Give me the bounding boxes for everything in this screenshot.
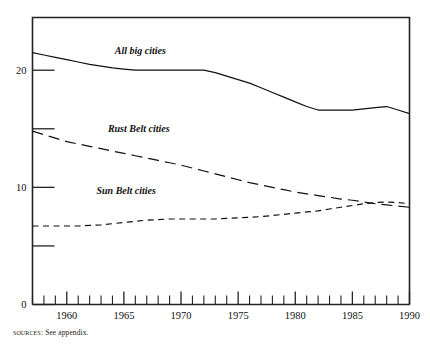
x-axis-tick-label: 1980 (285, 310, 306, 321)
series-inline-label: Rust Belt cities (107, 123, 170, 134)
x-axis-tick-label: 1960 (56, 310, 77, 321)
data-series-line (33, 131, 410, 207)
plot-frame (33, 18, 410, 305)
series-inline-label: All big cities (114, 45, 166, 56)
y-axis-tick-label: 10 (16, 182, 27, 193)
x-axis-tick-label: 1990 (399, 310, 420, 321)
y-axis-tick-label: 0 (21, 299, 26, 310)
series-inline-label: Sun Belt cities (96, 185, 156, 196)
line-chart: 196019651970197519801985199001020All big… (0, 0, 430, 350)
x-axis-tick-label: 1970 (171, 310, 192, 321)
y-axis-tick-label: 20 (16, 65, 27, 76)
source-note-text: See appendix. (43, 328, 88, 337)
source-note-label: Sources: (13, 327, 43, 337)
x-axis-tick-label: 1965 (113, 310, 134, 321)
data-series-line (33, 202, 410, 226)
chart-figure: 196019651970197519801985199001020All big… (0, 0, 430, 350)
x-axis-tick-label: 1975 (228, 310, 249, 321)
x-axis-tick-label: 1985 (342, 310, 363, 321)
source-note: Sources: See appendix. (13, 327, 89, 337)
data-series-line (33, 53, 410, 114)
